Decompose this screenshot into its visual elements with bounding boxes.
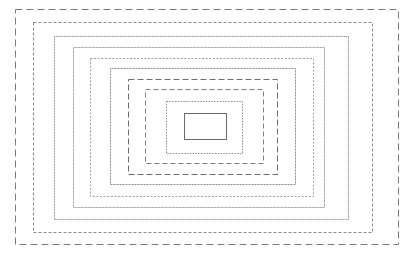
figure-canvas	[0, 0, 413, 253]
rectangle-inner-10	[185, 114, 227, 140]
nested-rectangles-figure	[0, 0, 413, 253]
